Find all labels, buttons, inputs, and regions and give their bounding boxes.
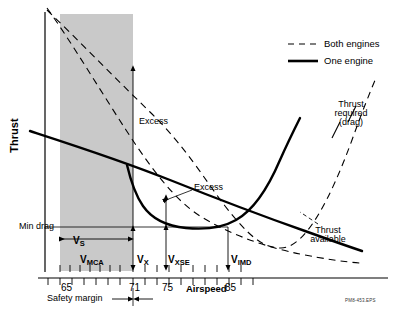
speed-label-vimd: VIMD — [231, 255, 251, 265]
x-tick-label-75: 75 — [162, 283, 173, 293]
excess-label-upper: Excess — [139, 117, 168, 126]
thrust-required-label: Thrust required (drag) — [328, 100, 374, 127]
figure-id-code: PM8-453.EPS — [345, 299, 376, 304]
safety-margin-label: Safety margin — [47, 294, 103, 303]
legend-label-one-engine: One engine — [324, 56, 373, 66]
x-axis-title: Airspeed — [186, 284, 227, 294]
thrust-available-label: Thrust available — [302, 226, 354, 244]
shaded-speed-band — [60, 14, 133, 271]
excess-label-lower: Excess — [194, 183, 223, 192]
figure-container: Thrust 65 71 75 85 Airspeed VS VMCA VX V… — [0, 0, 394, 315]
thrust-available-leader — [300, 212, 318, 224]
min-drag-label: Min drag — [19, 222, 54, 231]
speed-label-vmca: VMCA — [80, 255, 104, 265]
speed-label-vs: VS — [73, 236, 85, 246]
speed-label-vx: VX — [137, 255, 149, 265]
speed-label-vxse: VXSE — [168, 255, 190, 265]
x-tick-label-65: 65 — [61, 283, 72, 293]
y-axis-title: Thrust — [9, 106, 20, 166]
x-tick-label-71: 71 — [129, 283, 140, 293]
legend-label-both-engines: Both engines — [324, 39, 379, 49]
